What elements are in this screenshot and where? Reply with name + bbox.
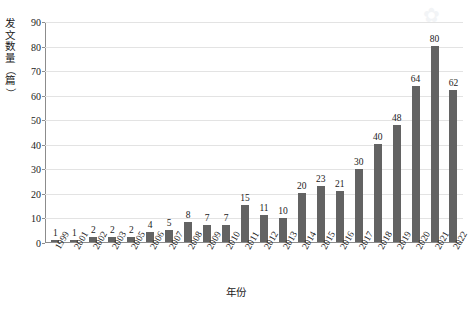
bar-value-label: 48 xyxy=(392,113,402,123)
bar-value-label: 15 xyxy=(240,193,250,203)
y-axis-tick-mark xyxy=(42,47,45,48)
x-tick-slot: 2019 xyxy=(387,245,406,279)
y-axis-tick-label: 0 xyxy=(36,238,41,249)
y-axis-tick-mark xyxy=(42,218,45,219)
y-axis-tick-label: 30 xyxy=(31,164,41,175)
bar-slot: 80 xyxy=(425,22,444,242)
y-axis-tick-label: 80 xyxy=(31,41,41,52)
x-tick-slot: 2017 xyxy=(349,245,368,279)
bar-value-label: 7 xyxy=(224,213,229,223)
bar-value-label: 20 xyxy=(297,181,307,191)
y-axis-tick-label: 50 xyxy=(31,115,41,126)
x-tick-slot: 2022 xyxy=(444,245,463,279)
bar-slot: 1 xyxy=(46,22,65,242)
y-axis-tick-mark xyxy=(42,145,45,146)
x-tick-slot: 2013 xyxy=(273,245,292,279)
bar-value-label: 2 xyxy=(110,225,115,235)
bar[interactable] xyxy=(355,169,363,242)
bar-value-label: 21 xyxy=(335,179,345,189)
bar-value-label: 5 xyxy=(167,218,172,228)
bar-chart: ✿ 发文数量（篇） 0102030405060708090 1122245877… xyxy=(0,0,471,312)
bar-slot: 48 xyxy=(387,22,406,242)
bar-slot: 2 xyxy=(103,22,122,242)
y-axis-title-char: 发 xyxy=(2,18,18,30)
x-tick-slot: 2015 xyxy=(311,245,330,279)
bar-series: 1122245877151110202321304048648062 xyxy=(46,22,463,242)
bar-slot: 20 xyxy=(292,22,311,242)
x-tick-slot: 2010 xyxy=(217,245,236,279)
x-tick-slot: 2001 xyxy=(65,245,84,279)
bar-slot: 8 xyxy=(179,22,198,242)
bar-value-label: 11 xyxy=(259,203,268,213)
x-tick-slot: 2012 xyxy=(254,245,273,279)
x-tick-slot: 2006 xyxy=(141,245,160,279)
bar-value-label: 7 xyxy=(205,213,210,223)
bar-value-label: 64 xyxy=(411,74,421,84)
bar-value-label: 10 xyxy=(278,206,288,216)
y-axis-title: 发文数量（篇） xyxy=(2,18,18,98)
x-tick-slot: 2021 xyxy=(425,245,444,279)
bar-slot: 21 xyxy=(330,22,349,242)
y-axis-title-char: ） xyxy=(5,84,16,100)
x-tick-slot: 2016 xyxy=(330,245,349,279)
x-tick-slot: 2007 xyxy=(160,245,179,279)
y-axis-tick-mark xyxy=(42,194,45,195)
x-tick-slot: 2020 xyxy=(406,245,425,279)
y-axis-tick-label: 60 xyxy=(31,90,41,101)
bar[interactable] xyxy=(449,90,457,242)
bar-value-label: 62 xyxy=(449,78,459,88)
x-axis-tick-labels: 1999200120022003200520062007200820092010… xyxy=(46,245,463,279)
y-axis-title-char: 数 xyxy=(2,41,18,53)
bar-slot: 5 xyxy=(160,22,179,242)
y-axis-tick-mark xyxy=(42,71,45,72)
x-tick-slot: 2018 xyxy=(368,245,387,279)
bar-slot: 11 xyxy=(254,22,273,242)
bar-slot: 10 xyxy=(273,22,292,242)
bar-value-label: 8 xyxy=(186,210,191,220)
x-tick-slot: 2011 xyxy=(236,245,255,279)
bar-value-label: 80 xyxy=(430,34,440,44)
x-tick-slot: 2005 xyxy=(122,245,141,279)
y-axis-tick-mark xyxy=(42,243,45,244)
bar-value-label: 1 xyxy=(72,228,77,238)
bar-value-label: 23 xyxy=(316,174,326,184)
y-axis-tick-label: 90 xyxy=(31,17,41,28)
bar-slot: 1 xyxy=(65,22,84,242)
y-axis-tick-label: 40 xyxy=(31,139,41,150)
bar-slot: 40 xyxy=(368,22,387,242)
y-axis-tick-mark xyxy=(42,22,45,23)
bar-slot: 64 xyxy=(406,22,425,242)
bar-slot: 62 xyxy=(444,22,463,242)
bar-value-label: 2 xyxy=(129,225,134,235)
bar-slot: 2 xyxy=(122,22,141,242)
y-axis-tick-mark xyxy=(42,96,45,97)
x-tick-slot: 2014 xyxy=(292,245,311,279)
bar[interactable] xyxy=(374,144,382,242)
y-axis-tick-label: 70 xyxy=(31,66,41,77)
bar[interactable] xyxy=(393,125,401,242)
bar-slot: 30 xyxy=(349,22,368,242)
y-axis-tick-mark xyxy=(42,169,45,170)
bar-slot: 23 xyxy=(311,22,330,242)
x-axis-title: 年份 xyxy=(0,284,471,299)
bar[interactable] xyxy=(412,86,420,242)
bar-value-label: 1 xyxy=(53,228,58,238)
bar-value-label: 30 xyxy=(354,157,364,167)
bar-value-label: 40 xyxy=(373,132,383,142)
bar-slot: 7 xyxy=(217,22,236,242)
y-axis-title-char: （ xyxy=(5,62,16,78)
bar-slot: 2 xyxy=(84,22,103,242)
bar-slot: 4 xyxy=(141,22,160,242)
bar-slot: 7 xyxy=(198,22,217,242)
bar-value-label: 2 xyxy=(91,225,96,235)
x-tick-slot: 2003 xyxy=(103,245,122,279)
plot-area: 0102030405060708090 11222458771511102023… xyxy=(45,22,463,243)
bar-slot: 15 xyxy=(236,22,255,242)
y-axis-tick-label: 20 xyxy=(31,188,41,199)
x-tick-slot: 1999 xyxy=(46,245,65,279)
x-tick-slot: 2002 xyxy=(84,245,103,279)
y-axis-tick-mark xyxy=(42,120,45,121)
bar[interactable] xyxy=(431,46,439,242)
y-axis-tick-label: 10 xyxy=(31,213,41,224)
x-tick-slot: 2008 xyxy=(179,245,198,279)
